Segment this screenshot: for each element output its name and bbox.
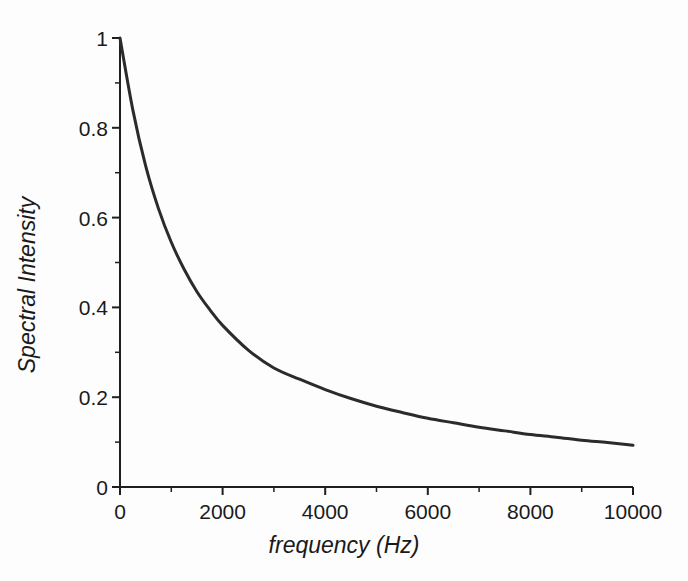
x-tick-label: 2000 [199, 501, 246, 522]
x-axis-title: frequency (Hz) [0, 532, 688, 559]
x-tick-label: 6000 [404, 501, 451, 522]
x-tick-label: 0 [114, 501, 126, 522]
data-curve-spectral-intensity [120, 38, 633, 445]
axes-group [120, 38, 633, 487]
tick-marks-group [112, 38, 633, 495]
y-tick-label: 1 [20, 28, 108, 49]
x-tick-label: 10000 [604, 501, 662, 522]
x-tick-label: 4000 [302, 501, 349, 522]
y-tick-label: 0.8 [20, 117, 108, 138]
x-tick-label: 8000 [507, 501, 554, 522]
y-axis-title: Spectral Intensity [14, 160, 41, 410]
chart-figure: 00.20.40.60.81 0200040006000800010000 fr… [0, 0, 688, 581]
y-tick-label: 0 [20, 477, 108, 498]
